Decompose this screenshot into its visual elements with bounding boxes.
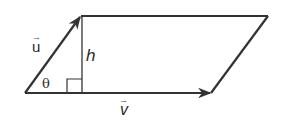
angle-theta-label: θ (42, 77, 50, 90)
vector-u-arrow (25, 17, 80, 93)
right-angle-marker (67, 79, 82, 93)
parallelogram-figure (0, 0, 283, 128)
vector-u-label: u (32, 39, 40, 54)
height-label: h (86, 47, 95, 64)
right-edge (211, 16, 268, 93)
parallelogram-diagram: → u h θ → v (0, 0, 283, 128)
vector-v-label: v (120, 102, 128, 118)
